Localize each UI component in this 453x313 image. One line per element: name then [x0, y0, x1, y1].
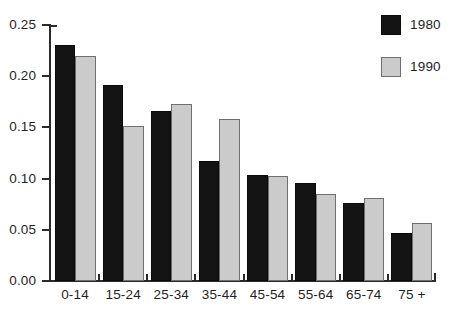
legend-swatch-icon-1990	[381, 57, 401, 77]
legend: 1980 1990	[381, 14, 441, 98]
bar-15-24-1990	[123, 126, 144, 281]
bar-15-24-1980	[103, 85, 124, 281]
y-axis-tick-label: 0.00	[0, 274, 36, 288]
bar-65-74-1980	[343, 203, 364, 281]
y-axis-tick	[42, 24, 51, 26]
bar-0-14-1990	[75, 56, 96, 281]
y-axis-tick-label: 0.05	[0, 223, 36, 237]
y-axis-tick	[42, 126, 51, 128]
bar-55-64-1980	[295, 183, 316, 281]
bar-55-64-1990	[316, 194, 337, 281]
bar-25-34-1980	[151, 111, 172, 281]
bar-0-14-1980	[55, 45, 76, 281]
bar-75-1980	[391, 233, 412, 281]
bar-45-54-1990	[268, 176, 289, 281]
y-axis-tick-label: 0.20	[0, 69, 36, 83]
y-axis-tick	[42, 75, 51, 77]
legend-label-1980: 1980	[410, 18, 441, 32]
bar-35-44-1990	[219, 119, 240, 281]
legend-item-1990: 1990	[381, 56, 441, 78]
bar-chart: 0.000.050.100.150.200.25 0-1415-2425-343…	[0, 0, 453, 313]
legend-swatch-icon-1980	[381, 15, 401, 35]
legend-label-1990: 1990	[410, 60, 441, 74]
plot-area	[51, 25, 436, 281]
bar-75-1990	[412, 223, 433, 281]
y-axis-tick-label: 0.15	[0, 120, 36, 134]
y-axis-tick	[42, 178, 51, 180]
x-axis-tick-label: 75 +	[377, 287, 447, 302]
y-axis-tick-label: 0.10	[0, 172, 36, 186]
bar-25-34-1990	[171, 104, 192, 281]
bar-35-44-1980	[199, 161, 220, 281]
bar-45-54-1980	[247, 175, 268, 281]
y-axis-tick	[42, 229, 51, 231]
bar-65-74-1990	[364, 198, 385, 281]
y-axis-tick-label: 0.25	[0, 18, 36, 32]
legend-item-1980: 1980	[381, 14, 441, 36]
